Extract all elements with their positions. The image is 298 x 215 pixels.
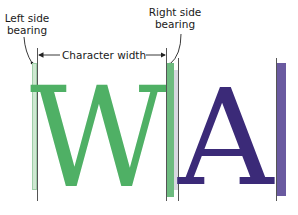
right-bearing-leader-icon [170, 34, 181, 64]
sidebearing-diagram: Left side bearing Right side bearing Cha… [0, 0, 298, 215]
a-right-bearing-bar [277, 63, 286, 196]
glyph-a: A [178, 72, 273, 204]
w-right-bearing-bar [167, 63, 174, 197]
glyph-w: W [30, 70, 168, 208]
